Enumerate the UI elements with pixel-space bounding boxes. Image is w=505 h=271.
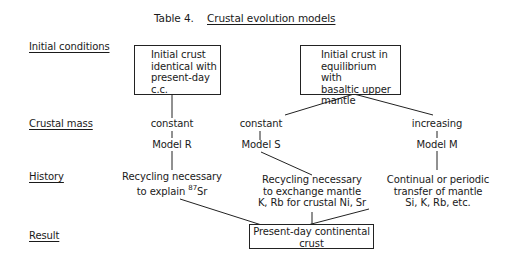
- model-r-label: Model R: [132, 139, 212, 151]
- result-box: Present-day continental crust: [249, 224, 374, 249]
- result-box-line-2: crust: [250, 238, 373, 250]
- crustal-mass-model-r: constant: [132, 118, 212, 130]
- row-label-history: History: [29, 171, 64, 183]
- history-model-m: Continual or periodic transfer of mantle…: [378, 174, 498, 209]
- history-r-line-2: to explain 87Sr: [112, 183, 232, 198]
- table-label: Table 4.: [154, 13, 194, 25]
- initial-box-equilibrium-line-3: basaltic upper: [321, 84, 400, 96]
- row-label-crustal-mass: Crustal mass: [29, 118, 93, 130]
- history-s-line-2: to exchange mantle: [246, 186, 378, 198]
- history-m-line-3: Si, K, Rb, etc.: [378, 197, 498, 209]
- model-s-label: Model S: [225, 139, 297, 151]
- history-m-line-2: transfer of mantle: [378, 186, 498, 198]
- crustal-mass-model-s: constant: [225, 118, 297, 130]
- crustal-mass-model-m: increasing: [397, 118, 477, 130]
- initial-box-identical: Initial crust identical with present-day…: [134, 45, 221, 95]
- model-m-label: Model M: [397, 139, 477, 151]
- initial-box-equilibrium-line-1: Initial crust in: [321, 49, 400, 61]
- isotope-symbol: Sr: [197, 186, 207, 197]
- history-model-s: Recycling necessary to exchange mantle K…: [246, 174, 378, 209]
- initial-box-identical-line-2: identical with: [151, 61, 220, 73]
- history-r-line-2-prefix: to explain: [137, 186, 189, 197]
- initial-box-equilibrium-line-2: equilibrium with: [321, 61, 400, 84]
- initial-box-identical-line-1: Initial crust: [151, 49, 220, 61]
- row-label-initial-conditions: Initial conditions: [29, 41, 110, 53]
- history-s-line-3: K, Rb for crustal Ni, Sr: [246, 197, 378, 209]
- result-box-line-1: Present-day continental: [250, 226, 373, 238]
- initial-box-identical-line-3: present-day: [151, 72, 220, 84]
- initial-box-identical-line-4: c.c.: [151, 84, 220, 96]
- initial-box-equilibrium-line-4: mantle: [321, 95, 400, 107]
- history-model-r: Recycling necessary to explain 87Sr: [112, 171, 232, 197]
- history-s-line-1: Recycling necessary: [246, 174, 378, 186]
- row-label-result: Result: [29, 230, 59, 242]
- table-caption: Crustal evolution models: [207, 13, 335, 25]
- history-m-line-1: Continual or periodic: [378, 174, 498, 186]
- history-r-line-1: Recycling necessary: [112, 171, 232, 183]
- isotope-mass: 87: [188, 184, 197, 192]
- initial-box-equilibrium: Initial crust in equilibrium with basalt…: [300, 45, 401, 95]
